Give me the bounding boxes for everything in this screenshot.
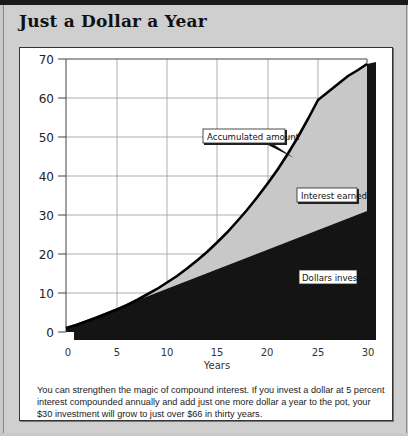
accumulated-amount-label: Accumulated amount xyxy=(203,129,300,158)
svg-text:50: 50 xyxy=(39,131,54,145)
y-axis-labels: 70 60 50 40 30 20 10 0 xyxy=(39,53,54,340)
svg-text:20: 20 xyxy=(261,347,274,358)
svg-text:20: 20 xyxy=(39,248,54,262)
svg-text:40: 40 xyxy=(39,170,54,184)
svg-text:60: 60 xyxy=(39,92,54,106)
svg-text:25: 25 xyxy=(312,347,325,358)
svg-text:30: 30 xyxy=(39,209,54,223)
svg-text:0: 0 xyxy=(46,326,54,340)
svg-text:30: 30 xyxy=(362,347,375,358)
interest-earned-label: Interest earned xyxy=(297,188,367,204)
x-axis-labels: 0 5 10 15 20 25 30 Years xyxy=(65,347,375,371)
svg-text:Dollars invested: Dollars invested xyxy=(302,273,371,283)
y-axis-ticks xyxy=(58,59,66,332)
svg-text:0: 0 xyxy=(65,347,71,358)
svg-text:Interest earned: Interest earned xyxy=(301,191,367,201)
figure-caption: You can strengthen the magic of compound… xyxy=(37,384,387,420)
chart: 70 60 50 40 30 20 10 0 0 5 10 15 20 25 3… xyxy=(0,0,408,436)
svg-text:10: 10 xyxy=(39,287,54,301)
svg-text:5: 5 xyxy=(114,347,120,358)
dollars-invested-label: Dollars invested xyxy=(299,270,371,284)
x-axis-title: Years xyxy=(203,360,230,371)
svg-text:Accumulated amount: Accumulated amount xyxy=(207,132,300,142)
svg-text:10: 10 xyxy=(161,347,174,358)
svg-text:15: 15 xyxy=(211,347,224,358)
svg-text:70: 70 xyxy=(39,53,54,67)
